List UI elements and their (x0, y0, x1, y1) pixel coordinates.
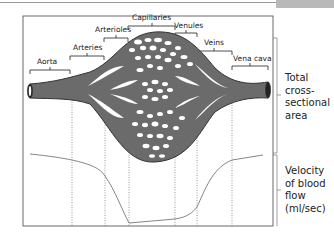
area-label: Total cross- sectional area (285, 72, 330, 122)
velocity-curve (30, 154, 263, 223)
label-aorta: Aorta (37, 58, 57, 66)
velocity-label-line: of blood (285, 178, 326, 191)
label-capillaries: Capillaries (132, 14, 171, 22)
label-veins: Veins (204, 39, 224, 47)
velocity-label-line: (ml/sec) (285, 203, 326, 216)
area-label-line: cross- (285, 85, 330, 98)
label-arteries: Arteries (73, 44, 102, 52)
circulation-diagram (0, 0, 334, 238)
area-label-line: area (285, 110, 330, 123)
label-venules: Venules (174, 22, 203, 30)
area-label-line: Total (285, 72, 330, 85)
label-arterioles: Arterioles (95, 26, 131, 34)
velocity-label-line: Velocity (285, 165, 326, 178)
velocity-label: Velocity of blood flow (ml/sec) (285, 165, 326, 215)
vessel-network (28, 32, 271, 162)
velocity-label-line: flow (285, 190, 326, 203)
area-label-line: sectional (285, 97, 330, 110)
label-vena-cava: Vena cava (233, 55, 272, 63)
